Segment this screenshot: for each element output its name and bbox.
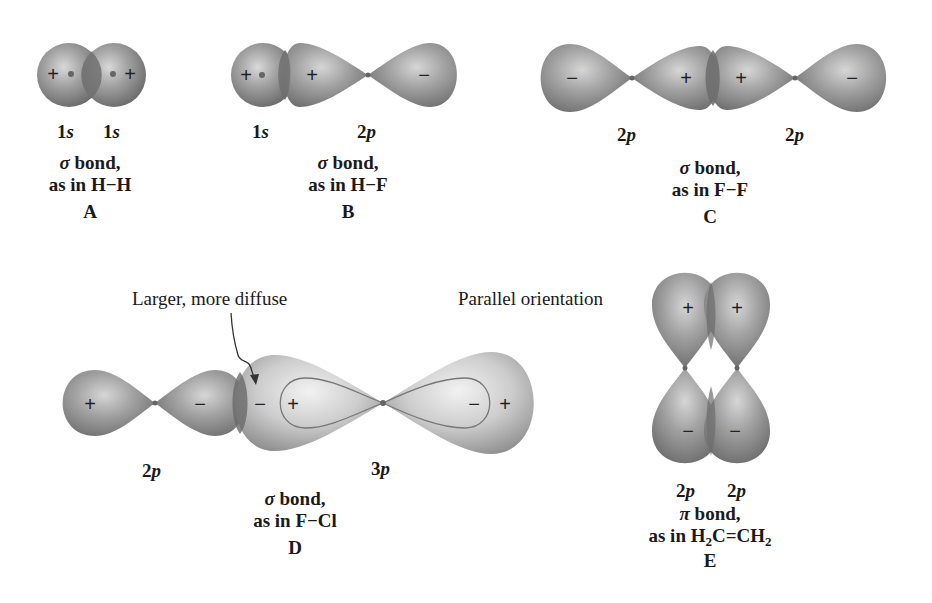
bond-example: as in H2C=CH2 — [620, 525, 800, 547]
phase-sign-positive: + — [84, 394, 96, 414]
panel-b-caption: σ bond, as in H−F B — [293, 152, 403, 223]
phase-sign-positive: + — [47, 64, 59, 84]
phase-sign-negative: − — [566, 68, 578, 88]
bond-type: σ bond, — [40, 152, 140, 174]
2p-negative-lobe-right — [795, 44, 886, 112]
2p-positive-lobe — [63, 370, 155, 436]
panel-e-caption: π bond, as in H2C=CH2 E — [620, 503, 800, 572]
orbital-label: 2p — [142, 460, 161, 482]
orbital-label: 2p — [617, 124, 636, 146]
bond-example: as in H−F — [293, 174, 403, 196]
node — [683, 366, 688, 371]
panel-letter: C — [655, 206, 765, 228]
phase-sign-positive: + — [682, 298, 694, 318]
bond-type: σ bond, — [293, 152, 403, 174]
node — [793, 76, 798, 81]
orbital-label: 2p — [727, 480, 746, 502]
2p-positive-lobe — [284, 43, 369, 107]
panel-e-orbitals — [652, 273, 770, 464]
phase-sign-positive: + — [306, 65, 318, 85]
orbital-label: 3p — [371, 458, 390, 480]
nucleus-dot — [110, 71, 116, 77]
panel-d-caption: σ bond, as in F−Cl D — [235, 488, 355, 559]
panel-d-orbitals — [63, 313, 534, 454]
phase-sign-positive: + — [124, 64, 136, 84]
phase-sign-negative: − — [846, 68, 858, 88]
panel-letter: B — [293, 201, 403, 223]
2p-negative-lobe — [368, 43, 457, 107]
bond-type: σ bond, — [655, 157, 765, 179]
node — [153, 401, 158, 406]
node — [380, 400, 386, 406]
bond-example: as in F−F — [655, 179, 765, 201]
orbital-label: 2p — [676, 480, 695, 502]
2p-positive-lobe-left — [632, 46, 718, 110]
2p-negative-lobe-left — [541, 44, 632, 112]
panel-c-orbitals — [541, 44, 887, 112]
2p-positive-lobe-right — [709, 46, 795, 110]
node — [366, 73, 371, 78]
phase-sign-negative: − — [194, 394, 206, 414]
phase-sign-negative: − — [468, 394, 480, 414]
orbital-label: 1s — [252, 121, 269, 143]
annotation-larger-more-diffuse: Larger, more diffuse — [132, 288, 287, 310]
phase-sign-positive: + — [287, 394, 299, 414]
phase-sign-positive: + — [731, 298, 743, 318]
example-text: C=CH — [712, 525, 765, 546]
subscript: 2 — [765, 534, 772, 549]
annotation-parallel-orientation: Parallel orientation — [458, 288, 603, 310]
orbital-label: 1s — [103, 121, 120, 143]
panel-letter: D — [235, 537, 355, 559]
bond-example: as in F−Cl — [235, 510, 355, 532]
phase-sign-negative: − — [418, 65, 430, 85]
phase-sign-negative: − — [682, 421, 694, 441]
bond-type: π bond, — [620, 503, 800, 525]
node — [630, 76, 635, 81]
orbital-label: 2p — [357, 121, 376, 143]
phase-sign-positive: + — [499, 394, 511, 414]
phase-sign-positive: + — [680, 68, 692, 88]
phase-sign-positive: + — [735, 68, 747, 88]
phase-sign-negative: − — [729, 421, 741, 441]
panel-letter: E — [620, 550, 800, 572]
panel-a-caption: σ bond, as in H−H A — [40, 152, 140, 223]
nucleus-dot — [259, 72, 265, 78]
phase-sign-negative: − — [254, 394, 266, 414]
orbital-label: 2p — [785, 124, 804, 146]
panel-c-caption: σ bond, as in F−F C — [655, 157, 765, 228]
orbital-label: 1s — [57, 121, 74, 143]
node — [735, 366, 740, 371]
pointer-arrow — [231, 313, 255, 380]
phase-sign-positive: + — [240, 65, 252, 85]
example-text: as in H — [648, 525, 705, 546]
bond-type: σ bond, — [235, 488, 355, 510]
panel-letter: A — [40, 201, 140, 223]
nucleus-dot — [68, 71, 74, 77]
3p-large-lobe-right — [383, 352, 534, 454]
bond-example: as in H−H — [40, 174, 140, 196]
